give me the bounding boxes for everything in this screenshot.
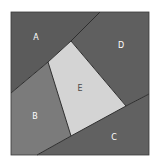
partition-diagram: ADEBC bbox=[0, 0, 159, 165]
region-label-e: E bbox=[77, 84, 82, 93]
region-label-d: D bbox=[118, 41, 124, 50]
region-label-c: C bbox=[111, 133, 117, 142]
region-label-a: A bbox=[33, 33, 39, 42]
region-label-b: B bbox=[32, 112, 38, 121]
